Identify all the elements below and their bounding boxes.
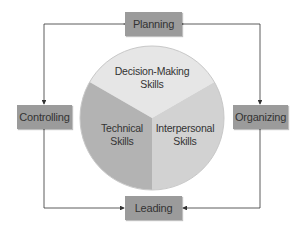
management-diagram: Planning Controlling Organizing Leading … (0, 0, 301, 233)
skill-line: Skills (152, 135, 218, 148)
leading-label: Leading (135, 202, 173, 214)
skill-line: Skills (107, 78, 197, 91)
organizing-label: Organizing (235, 111, 286, 123)
organizing-box: Organizing (233, 105, 288, 129)
planning-label: Planning (133, 18, 174, 30)
skill-line: Interpersonal (152, 122, 218, 135)
controlling-label: Controlling (19, 111, 69, 123)
controlling-box: Controlling (17, 105, 72, 129)
skill-line: Decision-Making (107, 65, 197, 78)
skill-line: Technical (92, 122, 152, 135)
interpersonal-skills-label: Interpersonal Skills (152, 122, 218, 148)
decision-making-skills-label: Decision-Making Skills (107, 65, 197, 91)
leading-box: Leading (125, 196, 182, 220)
planning-box: Planning (125, 12, 182, 36)
technical-skills-label: Technical Skills (92, 122, 152, 148)
skill-line: Skills (92, 135, 152, 148)
